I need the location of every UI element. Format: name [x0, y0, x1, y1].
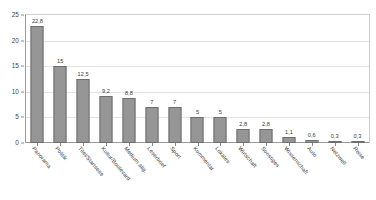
bar-value-label: 8,8 — [125, 91, 133, 97]
bar-slot: 0,3 — [346, 15, 369, 143]
bar-value-label: 0,3 — [354, 134, 362, 140]
bar-value-label: 5 — [219, 110, 222, 116]
bar[interactable] — [260, 129, 273, 143]
x-category-label: Medium allg. — [123, 146, 148, 174]
x-axis-category-labels: PanoramaPolitikTitel/StartseiteKultur/Bo… — [26, 146, 369, 200]
bar-slot: 0,3 — [323, 15, 346, 143]
y-tick-mark — [21, 143, 24, 144]
x-category-label: Lokales — [214, 146, 231, 165]
bar[interactable] — [77, 79, 90, 143]
bar[interactable] — [168, 107, 181, 143]
bar-value-label: 7 — [173, 100, 176, 106]
y-tick-mark — [21, 15, 24, 16]
x-category-label: Kommentar — [191, 146, 214, 172]
x-category-label: Sonstiges — [260, 146, 280, 169]
bar-chart: 0510152025 22,81512,59,28,877552,82,81,1… — [0, 0, 376, 200]
bar-value-label: 22,8 — [32, 19, 43, 25]
bar-value-label: 5 — [196, 110, 199, 116]
y-tick-label: 15 — [12, 63, 19, 69]
bar-slot: 5 — [186, 15, 209, 143]
x-category-label: Leserbrief — [146, 146, 167, 169]
bar[interactable] — [214, 117, 227, 143]
bar-slot: 15 — [49, 15, 72, 143]
bar-value-label: 2,8 — [239, 122, 247, 128]
x-category-label: Sport — [168, 146, 181, 160]
bar-slot: 2,8 — [232, 15, 255, 143]
bar-slot: 8,8 — [117, 15, 140, 143]
bar[interactable] — [122, 98, 135, 143]
y-tick-mark — [21, 117, 24, 118]
x-category-label: Panorama — [31, 146, 52, 170]
bar-value-label: 15 — [57, 59, 63, 65]
bar-value-label: 2,8 — [262, 122, 270, 128]
x-category-label: Netzwelt — [328, 146, 346, 166]
y-tick-mark — [21, 40, 24, 41]
bar-value-label: 0,3 — [331, 134, 339, 140]
bar-slot: 5 — [209, 15, 232, 143]
bar-value-label: 12,5 — [78, 72, 89, 78]
bar[interactable] — [237, 129, 250, 143]
bar[interactable] — [191, 117, 204, 143]
bar-value-label: 1,1 — [285, 130, 293, 136]
y-tick-label: 25 — [12, 12, 19, 18]
bar-slot: 0,6 — [300, 15, 323, 143]
y-tick-label: 10 — [12, 89, 19, 95]
x-category-label: Politik — [54, 146, 68, 161]
bar-value-label: 7 — [150, 100, 153, 106]
bar-slot: 7 — [163, 15, 186, 143]
bar[interactable] — [145, 107, 158, 143]
x-category-label: Wissenschaft — [283, 146, 309, 176]
bar-slot: 12,5 — [72, 15, 95, 143]
y-tick-label: 5 — [15, 114, 19, 120]
bar[interactable] — [100, 96, 113, 143]
bar-slot: 1,1 — [278, 15, 301, 143]
y-tick-mark — [21, 91, 24, 92]
x-category-label: Reise — [351, 146, 365, 161]
bar-value-label: 9,2 — [102, 89, 110, 95]
bar-slot: 7 — [140, 15, 163, 143]
y-tick-label: 20 — [12, 37, 19, 43]
bar-slot: 22,8 — [26, 15, 49, 143]
y-tick-mark — [21, 66, 24, 67]
y-tick-label: 0 — [15, 140, 19, 146]
bar[interactable] — [31, 26, 44, 143]
bars-layer: 22,81512,59,28,877552,82,81,10,60,30,3 — [26, 15, 369, 143]
bar[interactable] — [54, 66, 67, 143]
y-axis: 0510152025 — [0, 14, 24, 144]
x-category-label: Wirtschaft — [237, 146, 258, 169]
bar-slot: 9,2 — [95, 15, 118, 143]
x-category-label: Auto — [306, 146, 318, 159]
bar-slot: 2,8 — [255, 15, 278, 143]
bar-value-label: 0,6 — [308, 133, 316, 139]
